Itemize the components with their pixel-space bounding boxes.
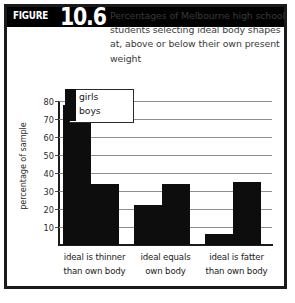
legend-entry-girls: girls: [79, 91, 98, 102]
x-category-label-line: ideal equals: [126, 251, 205, 265]
figure-number-label: 10.6: [60, 2, 106, 31]
x-category-label-line: ideal is thinner: [55, 251, 134, 265]
legend-entry-boys: boys: [79, 105, 101, 116]
figure-frame: FIGURE 10.6 Percentages of Melbourne hig…: [4, 4, 287, 289]
y-tick-label: 50: [28, 151, 54, 161]
y-tick-label: 20: [28, 205, 54, 215]
y-tick-label: 40: [28, 169, 54, 179]
bar-boys-1: [162, 184, 190, 245]
y-axis-tick-labels: 1020304050607080: [26, 101, 54, 245]
x-category-label-1: ideal equalsown body: [126, 251, 205, 278]
y-tick-label: 10: [28, 223, 54, 233]
bar-girls-2: [205, 234, 233, 245]
figure-title: Percentages of Melbourne high school stu…: [110, 9, 282, 66]
legend-swatch-bar: [65, 89, 76, 121]
figure-tag-label: FIGURE: [13, 9, 48, 22]
x-category-label-2: ideal is fatterthan own body: [197, 251, 276, 278]
x-axis-category-labels: ideal is thinnerthan own bodyideal equal…: [59, 251, 273, 285]
figure-title-line-4: weight: [110, 52, 282, 66]
x-category-label-line: than own body: [197, 265, 276, 279]
bar-girls-0: [63, 105, 91, 245]
y-tick-label: 60: [28, 133, 54, 143]
x-category-label-line: than own body: [55, 265, 134, 279]
y-tick-label: 80: [28, 97, 54, 107]
bar-girls-1: [134, 205, 162, 245]
bar-chart: percentage of sample 1020304050607080 gi…: [7, 79, 284, 286]
y-tick-label: 70: [28, 115, 54, 125]
figure-title-line-1: Percentages of Melbourne high school: [110, 9, 282, 23]
bar-boys-0: [91, 184, 119, 245]
y-tick-label: 30: [28, 187, 54, 197]
figure-title-line-3: at, above or below their own present: [110, 37, 282, 51]
chart-legend: girls boys: [69, 89, 134, 123]
x-category-label-line: ideal is fatter: [197, 251, 276, 265]
x-category-label-line: own body: [126, 265, 205, 279]
figure-title-line-2: students selecting ideal body shapes: [110, 23, 282, 37]
bar-boys-2: [233, 182, 261, 245]
x-category-label-0: ideal is thinnerthan own body: [55, 251, 134, 278]
